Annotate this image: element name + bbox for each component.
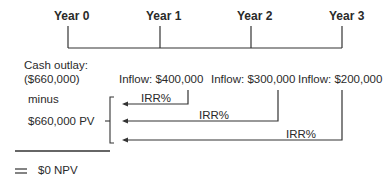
irr-label-1: IRR% bbox=[141, 92, 171, 104]
bracket bbox=[105, 97, 114, 143]
year-0-label: Year 0 bbox=[54, 9, 89, 23]
timeline-axis bbox=[68, 26, 342, 48]
inflow-year-1: Inflow: $400,000 bbox=[119, 73, 203, 85]
minus-label: minus bbox=[28, 93, 59, 105]
irr-label-2: IRR% bbox=[199, 109, 229, 121]
arrowheads bbox=[122, 102, 128, 143]
year-3-label: Year 3 bbox=[329, 9, 364, 23]
year-2-label: Year 2 bbox=[237, 9, 272, 23]
cash-outlay-label: Cash outlay: bbox=[24, 59, 88, 71]
pv-label: $660,000 PV bbox=[28, 115, 95, 127]
irr-label-3: IRR% bbox=[286, 128, 316, 140]
inflow-year-3: Inflow: $200,000 bbox=[298, 73, 382, 85]
cash-outlay-value: ($660,000) bbox=[24, 73, 80, 85]
equals-icon bbox=[15, 169, 27, 173]
inflow-year-2: Inflow: $300,000 bbox=[211, 73, 295, 85]
year-1-label: Year 1 bbox=[146, 9, 181, 23]
npv-label: $0 NPV bbox=[38, 164, 78, 176]
